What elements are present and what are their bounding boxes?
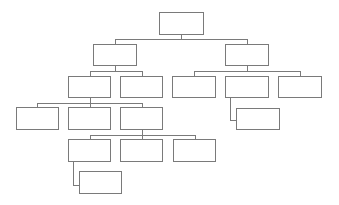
org-node-root[interactable] (159, 12, 204, 35)
org-node-l5-b[interactable] (120, 139, 163, 162)
org-node-l3-right-b[interactable] (225, 76, 269, 98)
connector (230, 98, 231, 120)
org-node-l3-right-b-child[interactable] (236, 108, 280, 130)
org-chart (0, 0, 339, 205)
org-node-l4-b[interactable] (68, 107, 111, 130)
connector (115, 39, 247, 40)
connector (90, 71, 142, 72)
org-node-l5-a[interactable] (68, 139, 111, 162)
org-node-l2-right[interactable] (225, 44, 269, 66)
org-node-l5-c[interactable] (173, 139, 216, 162)
connector (73, 162, 74, 185)
org-node-l2-left[interactable] (93, 44, 137, 66)
org-node-l4-c[interactable] (120, 107, 163, 130)
org-node-l4-a[interactable] (16, 107, 59, 130)
org-node-l3-right-a[interactable] (172, 76, 216, 98)
org-node-l3-left-a[interactable] (68, 76, 111, 98)
org-node-l3-right-c[interactable] (278, 76, 322, 98)
connector (194, 71, 300, 72)
org-node-l5-a-child[interactable] (79, 171, 122, 194)
org-node-l3-left-b[interactable] (120, 76, 163, 98)
